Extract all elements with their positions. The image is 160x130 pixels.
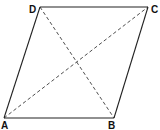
parallelogram-diagonals (4, 7, 148, 118)
edge-da (4, 7, 40, 118)
diagonal-db (40, 7, 114, 118)
vertex-label-a: A (1, 120, 8, 130)
edge-bc (114, 7, 148, 118)
parallelogram-diagram: ABCD (0, 0, 160, 130)
vertex-labels: ABCD (1, 4, 158, 130)
vertex-label-d: D (29, 4, 36, 15)
vertex-label-b: B (108, 120, 115, 130)
diagonal-ac (4, 7, 148, 118)
vertex-label-c: C (151, 4, 158, 15)
